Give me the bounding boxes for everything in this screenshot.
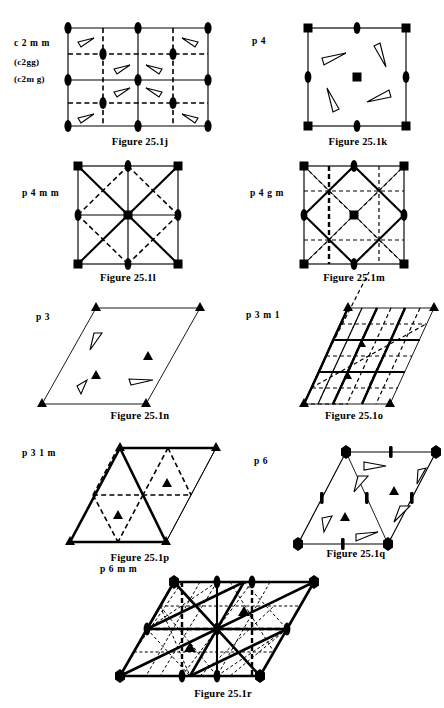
- diagram-p31m: [66, 440, 226, 550]
- group-label-p4gm: p 4 g m: [250, 188, 284, 198]
- group-label-p6mm: p 6 m m: [100, 564, 137, 574]
- caption-25-1n: Figure 25.1n: [100, 410, 180, 421]
- caption-25-1j: Figure 25.1j: [100, 136, 180, 147]
- diagram-p4mm: [72, 160, 184, 270]
- diagram-p4gm: [296, 160, 412, 270]
- group-altlabel-c2gg: (c2gg): [14, 57, 39, 67]
- caption-25-1p: Figure 25.1p: [100, 552, 180, 563]
- p3-cell-edges: [42, 308, 200, 404]
- diagram-p31m-svg: [66, 440, 226, 550]
- diagram-p4gm-svg: [296, 160, 412, 270]
- diagram-p3-svg: [36, 300, 206, 412]
- p4-fourfold-axes: [304, 24, 411, 131]
- diagram-p4: [302, 22, 412, 132]
- diagram-p4mm-svg: [72, 160, 184, 270]
- p3m1-glide-lines: [304, 272, 426, 404]
- p3-motifs: [77, 333, 153, 394]
- p3-threefold-axes: [37, 302, 205, 407]
- group-label-p6: p 6: [254, 456, 268, 466]
- p3m1-threefold-axes: [299, 302, 439, 407]
- diagram-p4-svg: [302, 22, 412, 132]
- caption-25-1m: Figure 25.1m: [314, 272, 394, 283]
- caption-25-1r: Figure 25.1r: [183, 688, 263, 699]
- group-label-p4mm: p 4 m m: [22, 188, 59, 198]
- group-label-p3m1: p 3 m 1: [246, 310, 280, 320]
- diagram-p6-svg: [290, 440, 442, 552]
- caption-25-1k: Figure 25.1k: [318, 136, 398, 147]
- figure-sheet: c 2 m m (c2gg) (c2m g): [0, 0, 444, 708]
- diagram-p6mm: [112, 574, 326, 686]
- group-altlabel-c2mg: (c2m g): [14, 74, 45, 84]
- diagram-p6: [290, 440, 442, 552]
- diagram-p6mm-svg: [112, 574, 326, 686]
- group-label-p4: p 4: [252, 36, 266, 46]
- caption-25-1l: Figure 25.1l: [88, 272, 168, 283]
- group-label-c2mm: c 2 m m: [14, 38, 50, 48]
- diagram-c2mm: [62, 22, 214, 132]
- caption-25-1q: Figure 25.1q: [316, 548, 396, 559]
- diagram-p3: [36, 300, 206, 412]
- caption-25-1o: Figure 25.1o: [314, 410, 394, 421]
- group-label-p31m: p 3 1 m: [22, 448, 56, 458]
- diagram-p3m1: [300, 300, 440, 412]
- diagram-c2mm-svg: [62, 22, 214, 132]
- diagram-p3m1-svg: [300, 300, 440, 412]
